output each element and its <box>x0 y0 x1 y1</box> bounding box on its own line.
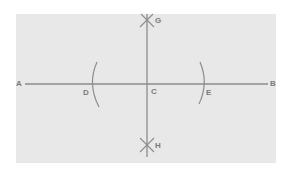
label-point-g: G <box>155 17 161 25</box>
arc-e <box>199 62 204 104</box>
label-point-c: C <box>151 88 157 96</box>
label-point-e: E <box>206 89 211 97</box>
label-point-d: D <box>83 89 89 97</box>
label-point-h: H <box>155 142 161 150</box>
label-point-a: A <box>16 80 22 88</box>
construction-figure <box>0 0 288 169</box>
label-point-b: B <box>270 80 276 88</box>
